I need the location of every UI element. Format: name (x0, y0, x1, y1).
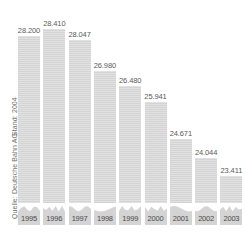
bar-column: 25.9412000 (145, 0, 167, 225)
x-axis-tick-label: 2001 (170, 214, 192, 223)
bar-value-label: 23.411 (220, 166, 242, 175)
bar-column: 26.9801998 (94, 0, 116, 225)
bar-column: 28.4101996 (43, 0, 65, 225)
bar-column: 26.4801999 (119, 0, 141, 225)
bar-body (94, 71, 116, 203)
bar-body (18, 36, 40, 203)
bar-column: 23.4112003 (220, 0, 242, 225)
bar-column: 28.2001995 (18, 0, 40, 225)
x-axis-tick-label: 2000 (145, 214, 167, 223)
bar-value-label: 26.980 (94, 61, 116, 70)
bar-value-label: 25.941 (144, 92, 166, 101)
bar-body (69, 40, 91, 203)
bar-body (170, 139, 192, 203)
bar-value-label: 28.410 (43, 19, 65, 28)
x-axis-tick-label: 1995 (18, 214, 40, 223)
bar-body (195, 158, 217, 203)
x-axis-tick-label: 1997 (69, 214, 91, 223)
x-axis-tick-label: 1996 (43, 214, 65, 223)
bar-column: 24.6712001 (170, 0, 192, 225)
bar-value-label: 28.047 (68, 30, 90, 39)
bar-value-label: 26.480 (119, 76, 141, 85)
bar-value-label: 28.200 (18, 26, 40, 35)
x-axis-tick-label: 1998 (94, 214, 116, 223)
bar-body (145, 102, 167, 203)
bar-column: 28.0471997 (69, 0, 91, 225)
x-axis-tick-label: 2002 (195, 214, 217, 223)
x-axis-tick-label: 2003 (220, 214, 242, 223)
bar-body (119, 86, 141, 203)
source-caption: Quelle: Deutsche Bahn AG Stand: 2004 (0, 0, 16, 233)
bar-body (220, 176, 242, 203)
bar-value-label: 24.044 (195, 148, 217, 157)
x-axis-tick-label: 1999 (119, 214, 141, 223)
bar-body (43, 29, 65, 203)
bar-chart: Quelle: Deutsche Bahn AG Stand: 2004 28.… (0, 0, 246, 233)
bar-value-label: 24.671 (170, 129, 192, 138)
bar-column: 24.0442002 (195, 0, 217, 225)
plot-area: 28.200199528.410199628.047199726.9801998… (17, 0, 246, 233)
